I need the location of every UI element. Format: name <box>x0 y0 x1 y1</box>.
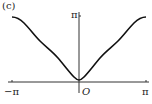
x-tick-label-origin: O <box>82 87 90 97</box>
x-tick-label-pi: π <box>142 87 149 97</box>
x-tick-label-neg-pi: −π <box>4 87 19 97</box>
y-tick-label-pi: π <box>71 10 78 20</box>
